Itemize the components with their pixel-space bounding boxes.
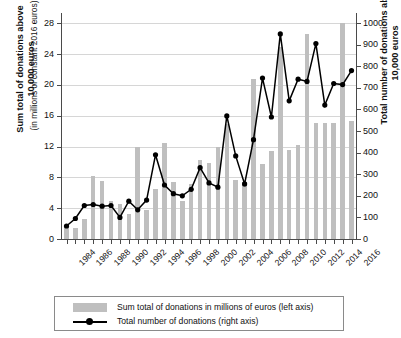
x-tick-mark [209, 240, 210, 244]
y-tick-mark-right [357, 196, 361, 197]
y-tick-mark-right [357, 153, 361, 154]
x-tick-mark [316, 240, 317, 244]
data-point [135, 207, 140, 212]
x-tick-mark [236, 240, 237, 244]
y-tick-label: 12 [28, 141, 54, 151]
data-point [91, 202, 96, 207]
y-tick-mark-right [357, 88, 361, 89]
legend-label-bars: Sum total of donations in millions of eu… [117, 300, 313, 314]
data-point [242, 181, 247, 186]
x-tick-mark [111, 240, 112, 244]
y-tick-mark-right [357, 174, 361, 175]
x-tick-mark [289, 240, 290, 244]
y-tick-mark [57, 23, 61, 24]
data-point [260, 76, 265, 81]
x-tick-label: 1998 [201, 247, 222, 268]
x-tick-label: 2016 [361, 247, 382, 268]
data-point [64, 223, 69, 228]
y-tick-mark-right [357, 239, 361, 240]
y-tick-label-right: 300 [363, 169, 393, 179]
data-point [349, 68, 354, 73]
line-series-group [62, 14, 356, 239]
y-tick-mark [57, 239, 61, 240]
x-tick-label: 1994 [165, 247, 186, 268]
x-tick-mark [93, 240, 94, 244]
x-tick-label: 2012 [325, 247, 346, 268]
x-tick-mark [129, 240, 130, 244]
x-tick-mark [102, 240, 103, 244]
x-tick-mark [334, 240, 335, 244]
x-tick-mark [200, 240, 201, 244]
x-tick-label: 2014 [343, 247, 364, 268]
data-point [296, 77, 301, 82]
legend: Sum total of donations in millions of eu… [54, 296, 344, 331]
x-tick-mark [138, 240, 139, 244]
data-point [162, 182, 167, 187]
x-tick-mark [254, 240, 255, 244]
y-tick-label: 24 [28, 49, 54, 59]
x-tick-mark [182, 240, 183, 244]
data-point [108, 203, 113, 208]
data-point [171, 191, 176, 196]
y-tick-mark-right [357, 131, 361, 132]
x-tick-mark [280, 240, 281, 244]
x-tick-mark [75, 240, 76, 244]
x-tick-mark [84, 240, 85, 244]
data-point [322, 103, 327, 108]
data-point [224, 113, 229, 118]
x-tick-label: 2000 [219, 247, 240, 268]
data-point [126, 199, 131, 204]
data-point [206, 180, 211, 185]
data-point [278, 31, 283, 36]
x-tick-mark [245, 240, 246, 244]
x-tick-mark [173, 240, 174, 244]
data-point [340, 82, 345, 87]
y-tick-label-right: 1000 [363, 18, 393, 28]
y-tick-label-right: 0 [363, 234, 393, 244]
x-tick-mark [191, 240, 192, 244]
y-tick-mark-right [357, 66, 361, 67]
data-point [215, 185, 220, 190]
x-tick-mark [298, 240, 299, 244]
x-tick-label: 1996 [183, 247, 204, 268]
y-tick-label: 8 [28, 172, 54, 182]
y-tick-mark [57, 147, 61, 148]
y-axis-line-right [356, 13, 357, 240]
x-tick-label: 2008 [290, 247, 311, 268]
data-point [180, 193, 185, 198]
data-point [304, 79, 309, 84]
y-tick-label-right: 700 [363, 82, 393, 92]
data-point [189, 187, 194, 192]
x-tick-mark [165, 240, 166, 244]
legend-label-line: Total number of donations (right axis) [117, 314, 258, 328]
data-point [117, 215, 122, 220]
data-point [198, 165, 203, 170]
x-tick-label: 2004 [254, 247, 275, 268]
x-tick-mark [343, 240, 344, 244]
legend-item-line: Total number of donations (right axis) [55, 314, 343, 328]
y-tick-mark-right [357, 23, 361, 24]
y-tick-label: 20 [28, 79, 54, 89]
x-tick-label: 1990 [129, 247, 150, 268]
x-tick-mark [120, 240, 121, 244]
y-tick-mark-right [357, 45, 361, 46]
y-tick-label: 4 [28, 203, 54, 213]
data-point [144, 198, 149, 203]
y-axis-line-left [61, 13, 62, 240]
y-tick-label-right: 500 [363, 126, 393, 136]
y-tick-label: 16 [28, 110, 54, 120]
y-tick-label-right: 900 [363, 39, 393, 49]
x-tick-label: 1984 [76, 247, 97, 268]
y-tick-label-right: 800 [363, 61, 393, 71]
x-tick-label: 2002 [236, 247, 257, 268]
y-tick-label-right: 100 [363, 212, 393, 222]
x-tick-mark [307, 240, 308, 244]
data-point [82, 203, 87, 208]
y-tick-mark [57, 85, 61, 86]
y-tick-mark [57, 54, 61, 55]
x-tick-label: 1986 [94, 247, 115, 268]
data-point [287, 98, 292, 103]
data-point [153, 152, 158, 157]
x-tick-label: 1992 [147, 247, 168, 268]
